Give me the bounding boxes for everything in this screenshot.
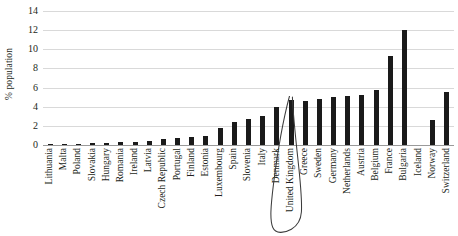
bar: [388, 56, 393, 145]
bar: [331, 97, 336, 145]
bar-slot: [256, 11, 270, 145]
bar: [90, 143, 95, 145]
x-label-slot: Slovakia: [86, 146, 100, 236]
bar-slot: [298, 11, 312, 145]
bar-slot: [71, 11, 85, 145]
x-label-slot: Austria: [355, 146, 369, 236]
bar-slot: [326, 11, 340, 145]
x-label-slot: Portugal: [171, 146, 185, 236]
y-axis-tick-label: 2: [16, 121, 38, 131]
x-axis-tick-label: Italy: [258, 148, 268, 165]
bar: [133, 142, 138, 145]
x-axis-tick-label: Czech Republic: [159, 148, 169, 208]
bar: [444, 92, 449, 145]
y-axis-tick-label: 8: [16, 63, 38, 73]
x-label-slot: Norway: [426, 146, 440, 236]
bar-slot: [128, 11, 142, 145]
bar: [359, 95, 364, 145]
y-axis-tick-label: 12: [16, 25, 38, 35]
bar-slot: [100, 11, 114, 145]
y-axis-tick-label: 6: [16, 83, 38, 93]
x-axis-tick-label: Lithuania: [45, 148, 55, 184]
x-axis-tick-label: Belgium: [371, 148, 381, 181]
x-label-slot: Italy: [256, 146, 270, 236]
bar: [118, 142, 123, 145]
bar-slot: [142, 11, 156, 145]
bar: [203, 136, 208, 145]
bar: [246, 119, 251, 145]
y-axis-title-text: % population: [4, 48, 14, 100]
bar-slot: [43, 11, 57, 145]
bar: [374, 90, 379, 145]
x-label-slot: Denmark: [270, 146, 284, 236]
x-label-slot: Greece: [298, 146, 312, 236]
x-axis-tick-label: Latvia: [145, 148, 155, 172]
bar-slot: [185, 11, 199, 145]
x-axis-tick-labels: LithuaniaMaltaPolandSlovakiaHungaryRoman…: [43, 146, 454, 236]
bar: [303, 101, 308, 145]
bar-slot: [114, 11, 128, 145]
bar-slot: [383, 11, 397, 145]
x-label-slot: Poland: [71, 146, 85, 236]
x-label-slot: Switzerland: [440, 146, 454, 236]
y-axis-tick-label: 14: [16, 6, 38, 16]
x-label-slot: Iceland: [411, 146, 425, 236]
x-axis-tick-label: Spain: [230, 148, 240, 170]
x-axis-tick-label: Portugal: [173, 148, 183, 180]
x-label-slot: Slovenia: [241, 146, 255, 236]
x-label-slot: United Kingdom: [284, 146, 298, 236]
x-axis-tick-label: Iceland: [414, 148, 424, 176]
x-axis-tick-label: Netherlands: [343, 148, 353, 194]
bar: [317, 99, 322, 145]
bar-slot: [284, 11, 298, 145]
x-label-slot: Ireland: [128, 146, 142, 236]
x-axis-tick-label: Switzerland: [442, 148, 452, 193]
bar-chart: % population 14121086420 LithuaniaMaltaP…: [0, 0, 458, 236]
bar-slot: [440, 11, 454, 145]
x-axis-tick-label: Poland: [74, 148, 84, 174]
x-label-slot: Lithuania: [43, 146, 57, 236]
bar-slot: [213, 11, 227, 145]
bar: [147, 141, 152, 145]
x-axis-tick-label: Denmark: [272, 148, 282, 183]
bar: [218, 128, 223, 145]
bar-slot: [312, 11, 326, 145]
x-axis-tick-label: Hungary: [102, 148, 112, 181]
x-label-slot: Sweden: [312, 146, 326, 236]
x-axis-tick-label: United Kingdom: [286, 148, 296, 212]
bar-slot: [171, 11, 185, 145]
bar-slot: [199, 11, 213, 145]
bar: [345, 96, 350, 145]
bar: [189, 137, 194, 145]
x-label-slot: Latvia: [142, 146, 156, 236]
bar-slot: [156, 11, 170, 145]
bar-slot: [341, 11, 355, 145]
x-axis-tick-label: France: [385, 148, 395, 174]
x-axis-tick-label: Greece: [300, 148, 310, 175]
x-axis-tick-label: Slovenia: [244, 148, 254, 181]
x-axis-tick-label: Norway: [428, 148, 438, 179]
bar: [175, 138, 180, 145]
bar-slot: [270, 11, 284, 145]
x-axis-tick-label: Romania: [116, 148, 126, 182]
plot-area: [43, 11, 454, 145]
bar: [274, 107, 279, 145]
x-label-slot: France: [383, 146, 397, 236]
x-label-slot: Finland: [185, 146, 199, 236]
bar: [48, 144, 53, 145]
x-axis-tick-label: Luxembourg: [215, 148, 225, 197]
bar-slot: [241, 11, 255, 145]
x-axis-tick-label: Malta: [60, 148, 70, 170]
bar-slot: [411, 11, 425, 145]
bar: [402, 30, 407, 145]
y-axis-tick-label: 0: [16, 140, 38, 150]
bar-slot: [369, 11, 383, 145]
y-axis-tick-labels: 14121086420: [16, 0, 38, 150]
bar: [260, 116, 265, 145]
x-label-slot: Bulgaria: [397, 146, 411, 236]
bar-slot: [86, 11, 100, 145]
bar: [232, 122, 237, 145]
bar: [430, 120, 435, 145]
x-label-slot: Estonia: [199, 146, 213, 236]
x-axis-tick-label: Slovakia: [88, 148, 98, 181]
